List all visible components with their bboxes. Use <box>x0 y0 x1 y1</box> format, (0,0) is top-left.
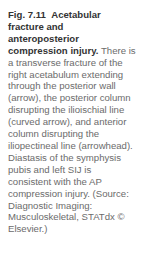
figure-body-text: There is a transverse fracture of the ri… <box>8 45 136 235</box>
figure-caption: Fig. 7.11 Acetabular fracture and antero… <box>8 9 136 235</box>
figure-label: Fig. 7.11 <box>8 9 46 20</box>
